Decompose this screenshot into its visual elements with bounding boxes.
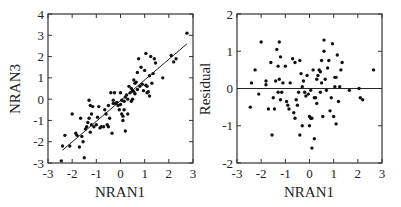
data-point: [139, 66, 142, 69]
data-point: [137, 57, 140, 60]
data-point: [297, 91, 300, 94]
data-point: [126, 112, 129, 115]
data-point: [336, 53, 339, 56]
y-tick-label: 3: [38, 28, 45, 43]
data-point: [309, 89, 312, 92]
y-tick-label: 0: [227, 81, 234, 96]
data-point: [87, 99, 90, 102]
data-point: [307, 92, 310, 95]
data-point: [83, 156, 86, 159]
data-point: [153, 57, 156, 60]
data-point: [301, 124, 304, 127]
data-point: [333, 85, 336, 88]
data-point: [313, 137, 316, 140]
data-point: [278, 40, 281, 43]
data-point: [332, 115, 335, 118]
data-point: [311, 68, 314, 71]
data-point: [287, 107, 290, 110]
data-point: [314, 96, 317, 99]
data-point: [63, 134, 66, 137]
data-point: [270, 133, 273, 136]
y-tick-label: -3: [33, 156, 44, 171]
y-tick-label: -1: [33, 113, 44, 128]
data-point: [141, 83, 144, 86]
data-point: [264, 79, 267, 82]
data-point: [269, 61, 272, 64]
y-tick-label: 0: [38, 92, 45, 107]
x-tick-labels: -3-2-10123: [232, 166, 386, 181]
data-point: [337, 100, 340, 103]
data-point: [86, 121, 89, 124]
y-axis-label: NRAN3: [7, 64, 23, 114]
data-point: [292, 111, 295, 114]
data-point: [303, 91, 306, 94]
data-point: [322, 38, 325, 41]
data-point: [119, 91, 122, 94]
data-point: [308, 124, 311, 127]
data-point: [320, 81, 323, 84]
x-axis-label: NRAN1: [284, 184, 334, 200]
data-point: [121, 114, 124, 117]
tick-marks: [48, 14, 193, 163]
x-tick-label: -3: [232, 166, 243, 181]
data-point: [103, 108, 106, 111]
data-point: [331, 42, 334, 45]
data-point: [319, 91, 322, 94]
data-point: [108, 117, 111, 120]
data-point: [288, 81, 291, 84]
data-point: [150, 81, 153, 84]
data-point: [284, 64, 287, 67]
data-point: [291, 57, 294, 60]
data-point: [135, 80, 138, 83]
x-tick-label: -2: [256, 166, 267, 181]
data-point: [286, 104, 289, 107]
data-point: [89, 130, 92, 133]
y-tick-label: 1: [38, 70, 45, 85]
data-point: [319, 70, 322, 73]
data-point: [70, 112, 73, 115]
data-point: [327, 59, 330, 62]
data-point: [112, 99, 115, 102]
x-tick-label: -1: [91, 166, 102, 181]
data-point: [334, 76, 337, 79]
data-point: [278, 77, 281, 80]
chart-canvas: -3-2-10123 -3-2-101234 NRAN1 NRAN3 -3-2-…: [0, 0, 401, 207]
data-point: [81, 140, 84, 143]
data-point: [315, 77, 318, 80]
data-point: [361, 98, 364, 101]
data-point: [310, 117, 313, 120]
y-tick-label: 2: [227, 7, 234, 22]
scatter-plot-nran3-vs-nran1: -3-2-10123 -3-2-101234 NRAN1 NRAN3: [7, 7, 196, 201]
data-point: [316, 74, 319, 77]
data-point: [298, 133, 301, 136]
data-point: [91, 105, 94, 108]
data-point: [145, 85, 148, 88]
data-point: [142, 89, 145, 92]
data-point: [126, 97, 129, 100]
data-point: [339, 68, 342, 71]
data-point: [110, 132, 113, 135]
data-point: [148, 94, 151, 97]
y-tick-label: -2: [222, 156, 233, 171]
data-point: [279, 98, 282, 101]
data-point: [102, 125, 105, 128]
data-point: [136, 88, 139, 91]
data-point: [107, 104, 110, 107]
data-point: [267, 107, 270, 110]
data-point: [133, 92, 136, 95]
data-point: [131, 97, 134, 100]
data-point: [264, 83, 267, 86]
data-point: [320, 59, 323, 62]
data-point: [330, 96, 333, 99]
data-point: [124, 129, 127, 132]
data-point: [293, 117, 296, 120]
data-point: [372, 68, 375, 71]
data-point: [122, 108, 125, 111]
x-tick-label: 2: [166, 166, 173, 181]
x-tick-label: 1: [141, 166, 148, 181]
y-tick-label: 2: [38, 49, 45, 64]
data-point: [61, 144, 64, 147]
data-point: [279, 55, 282, 58]
data-point: [90, 112, 93, 115]
data-points: [60, 31, 189, 162]
